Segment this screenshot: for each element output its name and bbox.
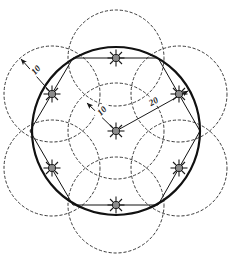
lower-left-sprinkler[interactable] bbox=[44, 160, 61, 177]
bottom-sprinkler[interactable] bbox=[108, 197, 125, 214]
lower-right-sprinkler[interactable] bbox=[171, 160, 188, 177]
diagram-canvas: 101020 bbox=[0, 0, 234, 264]
center-sprinkler[interactable] bbox=[108, 123, 125, 140]
sprinkler-layout-diagram: 101020 bbox=[0, 0, 234, 264]
upper-left-sprinkler[interactable] bbox=[44, 86, 61, 103]
upper-right-sprinkler[interactable] bbox=[171, 86, 188, 103]
top-sprinkler[interactable] bbox=[108, 50, 125, 67]
